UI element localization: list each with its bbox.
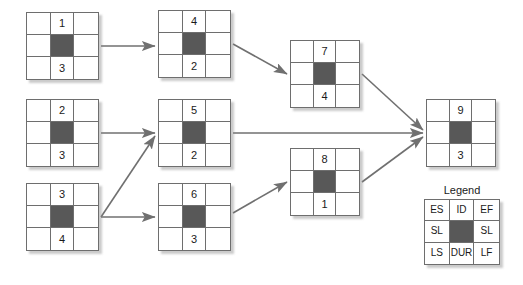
node-5-es-cell bbox=[159, 100, 183, 122]
edge-7-to-9 bbox=[362, 74, 423, 130]
node-2-center-block bbox=[51, 122, 75, 144]
edge-6-to-8 bbox=[233, 182, 287, 213]
node-3-lf-cell bbox=[74, 228, 98, 250]
network-diagram-canvas: 132334425263748193 Legend ESIDEFSLSLLSDU… bbox=[0, 0, 523, 285]
edge-8-to-9 bbox=[362, 137, 423, 182]
node-7-sl-left-cell bbox=[291, 63, 314, 85]
node-7-ls-cell bbox=[291, 85, 314, 107]
node-1-es-cell bbox=[27, 13, 51, 35]
node-4-es-cell bbox=[159, 11, 183, 33]
node-3-es-cell bbox=[27, 184, 51, 206]
node-8-sl-right-cell bbox=[336, 171, 359, 193]
node-6-sl-left-cell bbox=[159, 206, 183, 228]
node-2-sl-right-cell bbox=[74, 122, 98, 144]
node-9-id-cell: 9 bbox=[450, 100, 473, 122]
activity-node-8[interactable]: 81 bbox=[290, 148, 360, 216]
node-4-lf-cell bbox=[206, 55, 230, 77]
node-8-es-cell bbox=[291, 149, 314, 171]
node-3-ef-cell bbox=[74, 184, 98, 206]
node-3-id-cell: 3 bbox=[51, 184, 75, 206]
node-9-dur-cell: 3 bbox=[450, 144, 473, 166]
node-8-sl-left-cell bbox=[291, 171, 314, 193]
legend-es-cell: ES bbox=[425, 200, 450, 221]
node-4-dur-cell: 2 bbox=[183, 55, 207, 77]
node-4-id-cell: 4 bbox=[183, 11, 207, 33]
node-5-ef-cell bbox=[206, 100, 230, 122]
node-1-lf-cell bbox=[74, 57, 98, 79]
legend-ef-cell: EF bbox=[474, 200, 499, 221]
node-4-ef-cell bbox=[206, 11, 230, 33]
legend-title: Legend bbox=[424, 185, 500, 196]
node-9-sl-left-cell bbox=[427, 122, 450, 144]
node-1-sl-left-cell bbox=[27, 35, 51, 57]
node-4-sl-left-cell bbox=[159, 33, 183, 55]
node-8-ls-cell bbox=[291, 193, 314, 215]
node-4-ls-cell bbox=[159, 55, 183, 77]
node-8-center-block bbox=[314, 171, 337, 193]
activity-node-9[interactable]: 93 bbox=[426, 99, 496, 167]
node-9-ef-cell bbox=[472, 100, 495, 122]
node-4-center-block bbox=[183, 33, 207, 55]
activity-node-3[interactable]: 34 bbox=[26, 183, 99, 251]
node-9-sl-right-cell bbox=[472, 122, 495, 144]
node-3-sl-right-cell bbox=[74, 206, 98, 228]
node-5-sl-left-cell bbox=[159, 122, 183, 144]
node-8-dur-cell: 1 bbox=[314, 193, 337, 215]
node-9-es-cell bbox=[427, 100, 450, 122]
activity-node-5[interactable]: 52 bbox=[158, 99, 231, 167]
node-3-dur-cell: 4 bbox=[51, 228, 75, 250]
activity-node-7[interactable]: 74 bbox=[290, 40, 360, 108]
node-1-dur-cell: 3 bbox=[51, 57, 75, 79]
node-1-sl-right-cell bbox=[74, 35, 98, 57]
node-1-ls-cell bbox=[27, 57, 51, 79]
node-1-center-block bbox=[51, 35, 75, 57]
legend-ls-cell: LS bbox=[425, 243, 450, 264]
node-9-lf-cell bbox=[472, 144, 495, 166]
node-7-sl-right-cell bbox=[336, 63, 359, 85]
node-5-dur-cell: 2 bbox=[183, 144, 207, 166]
legend-dur-cell: DUR bbox=[450, 243, 475, 264]
node-1-id-cell: 1 bbox=[51, 13, 75, 35]
node-5-sl-right-cell bbox=[206, 122, 230, 144]
node-2-dur-cell: 3 bbox=[51, 144, 75, 166]
node-5-id-cell: 5 bbox=[183, 100, 207, 122]
node-9-ls-cell bbox=[427, 144, 450, 166]
node-7-center-block bbox=[314, 63, 337, 85]
node-4-sl-right-cell bbox=[206, 33, 230, 55]
activity-node-4[interactable]: 42 bbox=[158, 10, 231, 78]
activity-node-1[interactable]: 13 bbox=[26, 12, 99, 80]
activity-node-2[interactable]: 23 bbox=[26, 99, 99, 167]
legend-sl-left-cell: SL bbox=[425, 221, 450, 242]
node-2-sl-left-cell bbox=[27, 122, 51, 144]
node-8-id-cell: 8 bbox=[314, 149, 337, 171]
node-2-id-cell: 2 bbox=[51, 100, 75, 122]
node-2-ls-cell bbox=[27, 144, 51, 166]
node-7-id-cell: 7 bbox=[314, 41, 337, 63]
edge-4-to-7 bbox=[233, 44, 287, 74]
node-5-ls-cell bbox=[159, 144, 183, 166]
activity-node-6[interactable]: 63 bbox=[158, 183, 231, 251]
node-3-sl-left-cell bbox=[27, 206, 51, 228]
node-6-sl-right-cell bbox=[206, 206, 230, 228]
node-5-lf-cell bbox=[206, 144, 230, 166]
node-7-es-cell bbox=[291, 41, 314, 63]
node-7-lf-cell bbox=[336, 85, 359, 107]
legend-center-block-cell bbox=[450, 221, 475, 242]
node-5-center-block bbox=[183, 122, 207, 144]
node-8-lf-cell bbox=[336, 193, 359, 215]
node-2-lf-cell bbox=[74, 144, 98, 166]
node-6-dur-cell: 3 bbox=[183, 228, 207, 250]
node-7-dur-cell: 4 bbox=[314, 85, 337, 107]
node-9-center-block bbox=[450, 122, 473, 144]
node-2-es-cell bbox=[27, 100, 51, 122]
node-6-es-cell bbox=[159, 184, 183, 206]
edge-3-to-5 bbox=[101, 136, 155, 217]
node-6-ef-cell bbox=[206, 184, 230, 206]
node-8-ef-cell bbox=[336, 149, 359, 171]
node-6-lf-cell bbox=[206, 228, 230, 250]
legend-grid: ESIDEFSLSLLSDURLF bbox=[424, 199, 500, 265]
legend-sl-right-cell: SL bbox=[474, 221, 499, 242]
legend-lf-cell: LF bbox=[474, 243, 499, 264]
node-6-id-cell: 6 bbox=[183, 184, 207, 206]
node-6-center-block bbox=[183, 206, 207, 228]
